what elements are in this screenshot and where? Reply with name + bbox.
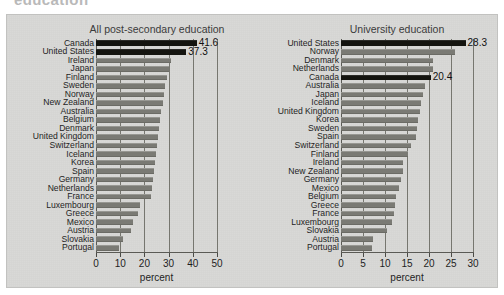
gridline-30 <box>473 39 474 252</box>
bar-series <box>341 39 473 252</box>
bar-slovakia <box>96 236 123 242</box>
bar-japan <box>341 92 423 98</box>
bar-canada <box>96 40 197 46</box>
bar-row <box>341 66 473 72</box>
bar-finland <box>96 75 167 81</box>
tick-mark-25 <box>451 253 452 257</box>
bar-row <box>96 66 217 72</box>
tick-mark-15 <box>407 253 408 257</box>
bar-row <box>341 219 473 225</box>
bar-row <box>96 236 217 242</box>
category-labels-right: United StatesNorwayDenmarkNetherlandsCan… <box>252 39 339 252</box>
bar-ireland <box>96 58 171 64</box>
bar-row <box>341 143 473 149</box>
bar-row <box>96 75 217 81</box>
tick-mark-50 <box>217 253 218 257</box>
tick-mark-20 <box>144 253 145 257</box>
x-tick-label-30: 30 <box>163 258 174 269</box>
tick-mark-10 <box>385 253 386 257</box>
x-tick-label-15: 15 <box>401 258 412 269</box>
tick-mark-0 <box>96 253 97 257</box>
bar-belgium <box>341 194 396 200</box>
bar-netherlands <box>96 185 152 191</box>
x-tick-label-20: 20 <box>423 258 434 269</box>
cropped-headline: education <box>0 0 504 14</box>
bar-row <box>96 126 217 132</box>
tick-mark-5 <box>363 253 364 257</box>
bar-row <box>341 245 473 251</box>
figure-container: education All post-secondary education C… <box>0 0 504 295</box>
x-tick-label-25: 25 <box>445 258 456 269</box>
x-tick-label-50: 50 <box>211 258 222 269</box>
bar-row <box>341 49 473 55</box>
bar-row <box>96 83 217 89</box>
bar-slovakia <box>341 228 387 234</box>
bar-row <box>96 58 217 64</box>
tick-mark-40 <box>193 253 194 257</box>
bar-australia <box>341 83 425 89</box>
bar-united-states <box>96 49 186 55</box>
bar-row <box>341 236 473 242</box>
x-axis-label: percent <box>140 272 173 283</box>
bar-row <box>341 202 473 208</box>
bar-sweden <box>341 126 417 132</box>
bar-korea <box>96 160 155 166</box>
chart-title-left: All post-secondary education <box>6 23 252 35</box>
bar-canada <box>341 75 431 81</box>
bar-row <box>341 117 473 123</box>
category-label-portugal: Portugal <box>8 243 94 252</box>
x-tick-label-5: 5 <box>360 258 366 269</box>
bar-row <box>341 168 473 174</box>
bar-france <box>96 194 151 200</box>
bar-row <box>96 160 217 166</box>
plot-area-right: 28.320.4051015202530percent <box>341 39 473 252</box>
chart-title-right: University education <box>252 23 498 35</box>
bar-row <box>96 194 217 200</box>
bar-finland <box>341 151 408 157</box>
bar-row <box>341 92 473 98</box>
bar-portugal <box>341 245 372 251</box>
bar-row <box>341 211 473 217</box>
bar-australia <box>96 109 161 115</box>
bar-row <box>96 143 217 149</box>
tick-mark-20 <box>429 253 430 257</box>
chart-panel-all-post-secondary: All post-secondary education CanadaUnite… <box>6 14 252 288</box>
bar-row <box>96 49 217 55</box>
bar-austria <box>96 228 131 234</box>
bar-row <box>341 151 473 157</box>
x-tick-label-10: 10 <box>115 258 126 269</box>
bar-netherlands <box>341 66 433 72</box>
bar-row <box>96 219 217 225</box>
bar-new-zealand <box>96 100 163 106</box>
bar-row <box>341 177 473 183</box>
x-tick-label-30: 30 <box>467 258 478 269</box>
x-tick-label-0: 0 <box>338 258 344 269</box>
bar-korea <box>341 117 418 123</box>
bar-new-zealand <box>341 168 403 174</box>
bar-germany <box>341 177 401 183</box>
bar-row <box>96 40 217 46</box>
bar-denmark <box>341 58 433 64</box>
category-labels-left: CanadaUnited StatesIrelandJapanFinlandSw… <box>6 39 94 252</box>
bar-luxembourg <box>96 202 140 208</box>
bar-greece <box>341 202 395 208</box>
x-tick-label-20: 20 <box>139 258 150 269</box>
bar-ireland <box>341 160 403 166</box>
bar-row <box>96 228 217 234</box>
bar-row <box>96 211 217 217</box>
bar-japan <box>96 66 169 72</box>
bar-row <box>96 177 217 183</box>
bar-norway <box>96 92 164 98</box>
bar-row <box>341 126 473 132</box>
bar-row <box>96 100 217 106</box>
bar-switzerland <box>96 143 157 149</box>
bar-row <box>341 58 473 64</box>
bar-france <box>341 211 394 217</box>
x-axis-label: percent <box>390 272 423 283</box>
bar-denmark <box>96 126 159 132</box>
bar-united-states <box>341 40 466 46</box>
bar-mexico <box>341 185 399 191</box>
bar-switzerland <box>341 143 411 149</box>
bar-row <box>341 194 473 200</box>
x-axis-baseline <box>96 252 218 253</box>
